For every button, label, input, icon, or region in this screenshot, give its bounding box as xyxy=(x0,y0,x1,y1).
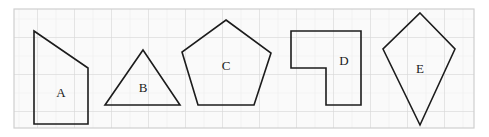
shape-B-label: B xyxy=(139,80,148,95)
figure-container: A B C D E xyxy=(0,0,489,137)
shape-C-label: C xyxy=(222,58,231,73)
shape-D-label: D xyxy=(339,53,348,68)
shapes-figure: A B C D E xyxy=(0,0,489,137)
shape-A-label: A xyxy=(56,85,66,100)
shape-E-label: E xyxy=(416,61,424,76)
